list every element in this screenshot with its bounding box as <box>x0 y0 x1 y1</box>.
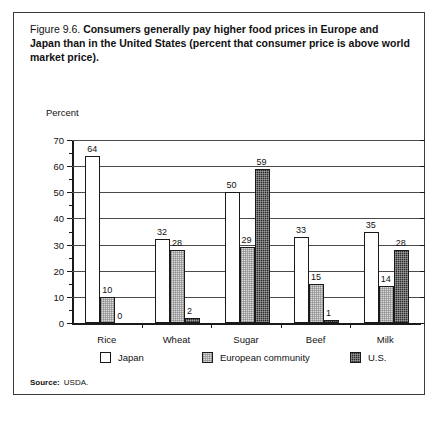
y-tick-right-30 <box>420 245 425 246</box>
bar-beef-u-s <box>324 320 339 323</box>
chart-legend: JapanEuropean communityU.S. <box>72 352 420 368</box>
bar-value-label: 29 <box>242 235 252 245</box>
bar-beef-european-community <box>309 284 324 323</box>
y-axis-label-40: 40 <box>53 213 64 224</box>
bar-milk-u-s <box>394 250 409 323</box>
y-tick-minor-45 <box>69 205 73 206</box>
bar-rice-european-community <box>100 297 115 323</box>
bar-milk-european-community <box>379 286 394 323</box>
y-tick-right-70 <box>420 140 425 141</box>
y-tick-70 <box>67 140 72 141</box>
y-tick-20 <box>67 271 72 272</box>
y-tick-minor-5 <box>69 310 73 311</box>
y-tick-60 <box>67 166 72 167</box>
y-axis-label-0: 0 <box>59 318 64 329</box>
y-tick-minor-65 <box>69 153 73 154</box>
legend-label: U.S. <box>368 352 386 363</box>
bar-value-label: 28 <box>172 238 182 248</box>
x-axis-label-beef: Beef <box>306 334 326 345</box>
plot-area: 01020304050607064100Rice32282Wheat502959… <box>72 140 420 323</box>
legend-label: European community <box>220 352 310 363</box>
gridline-60 <box>72 166 420 167</box>
x-axis-tick <box>211 323 212 328</box>
bar-value-label: 64 <box>87 144 97 154</box>
gridline-70 <box>72 140 420 141</box>
x-axis-tick <box>281 323 282 328</box>
figure-title-text: Consumers generally pay higher food pric… <box>30 23 410 63</box>
legend-item-u-s[interactable]: U.S. <box>350 352 386 363</box>
y-tick-40 <box>67 218 72 219</box>
figure-title: Figure 9.6. Consumers generally pay high… <box>30 22 410 64</box>
y-axis-label-70: 70 <box>53 135 64 146</box>
legend-item-japan[interactable]: Japan <box>100 352 144 363</box>
y-tick-minor-35 <box>69 232 73 233</box>
source-value: USDA. <box>64 378 88 387</box>
legend-swatch-icon <box>350 352 361 363</box>
bar-rice-japan <box>85 156 100 323</box>
y-tick-minor-25 <box>69 258 73 259</box>
bar-value-label: 28 <box>396 238 406 248</box>
y-tick-right-60 <box>420 166 425 167</box>
gridline-50 <box>72 192 420 193</box>
y-tick-30 <box>67 245 72 246</box>
figure-number: Figure 9.6. <box>30 23 80 35</box>
bar-value-label: 10 <box>102 285 112 295</box>
bar-value-label: 15 <box>311 272 321 282</box>
bar-sugar-european-community <box>240 247 255 323</box>
bar-value-label: 1 <box>326 308 331 318</box>
x-axis-label-sugar: Sugar <box>233 334 258 345</box>
y-tick-right-0 <box>420 323 425 324</box>
x-axis-label-milk: Milk <box>377 334 394 345</box>
legend-label: Japan <box>118 352 144 363</box>
bar-value-label: 35 <box>366 220 376 230</box>
y-axis-label-30: 30 <box>53 239 64 250</box>
y-axis-label-10: 10 <box>53 291 64 302</box>
bar-value-label: 2 <box>187 306 192 316</box>
bar-value-label: 50 <box>227 180 237 190</box>
bar-value-label: 32 <box>157 227 167 237</box>
bar-wheat-japan <box>155 239 170 323</box>
y-tick-10 <box>67 297 72 298</box>
y-tick-right-40 <box>420 218 425 219</box>
y-axis-label-50: 50 <box>53 187 64 198</box>
x-axis-label-wheat: Wheat <box>163 334 190 345</box>
gridline-0 <box>72 323 420 325</box>
bar-wheat-u-s <box>185 318 200 323</box>
bar-sugar-japan <box>225 192 240 323</box>
y-axis-label-60: 60 <box>53 161 64 172</box>
bar-beef-japan <box>294 237 309 323</box>
y-tick-right-20 <box>420 271 425 272</box>
x-axis-tick <box>350 323 351 328</box>
y-tick-right-10 <box>420 297 425 298</box>
y-tick-right-50 <box>420 192 425 193</box>
x-axis-label-rice: Rice <box>97 334 116 345</box>
source-label: Source: <box>30 378 60 387</box>
source-note: Source:USDA. <box>30 378 88 387</box>
y-tick-minor-15 <box>69 284 73 285</box>
y-axis-label-20: 20 <box>53 265 64 276</box>
bar-milk-japan <box>364 232 379 324</box>
bar-value-label: 59 <box>257 157 267 167</box>
bar-value-label: 33 <box>296 225 306 235</box>
x-axis-tick <box>142 323 143 328</box>
legend-item-european-community[interactable]: European community <box>202 352 310 363</box>
y-tick-0 <box>67 323 72 324</box>
bar-sugar-u-s <box>255 169 270 323</box>
figure-frame: Figure 9.6. Consumers generally pay high… <box>13 12 425 395</box>
y-axis-unit-label: Percent <box>46 107 79 118</box>
bar-wheat-european-community <box>170 250 185 323</box>
bar-value-label: 14 <box>381 274 391 284</box>
bar-value-label: 0 <box>117 311 122 321</box>
y-tick-50 <box>67 192 72 193</box>
legend-swatch-icon <box>100 352 111 363</box>
y-tick-minor-55 <box>69 179 73 180</box>
legend-swatch-icon <box>202 352 213 363</box>
